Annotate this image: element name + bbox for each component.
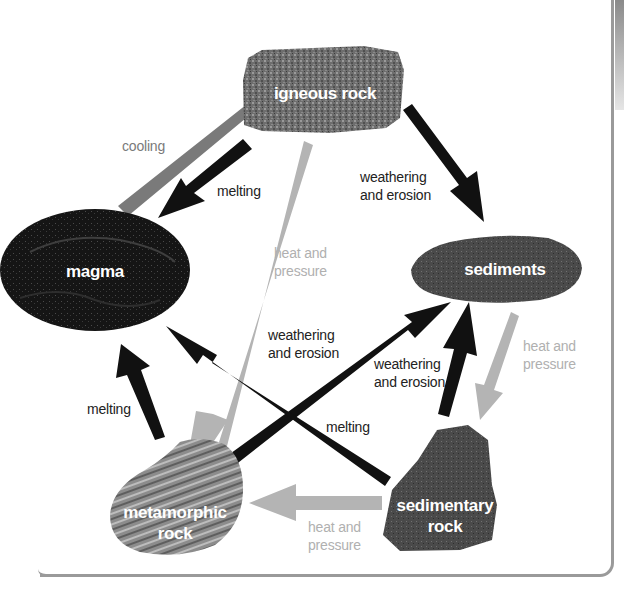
label-weathering-right: weathering and erosion — [374, 355, 445, 391]
label-heat-bottom-2: pressure — [308, 536, 361, 554]
label-heat-right-2: pressure — [523, 355, 576, 373]
sedimentary-line2: rock — [428, 516, 463, 537]
arrow-heat-sedimentary-metamorphic — [249, 484, 382, 521]
node-magma: magma — [40, 256, 150, 286]
sedimentary-line1: sedimentary — [397, 495, 494, 516]
label-heat-right-1: heat and — [523, 337, 576, 355]
label-heat-bottom-1: heat and — [308, 518, 361, 536]
label-weathering-top: weathering and erosion — [360, 168, 431, 204]
label-weathering-top-2: and erosion — [360, 186, 431, 204]
label-heat-left-2: pressure — [274, 262, 327, 280]
label-weathering-right-2: and erosion — [374, 373, 445, 391]
label-weathering-right-1: weathering — [374, 355, 445, 373]
metamorphic-line1: metamorphic — [123, 502, 226, 523]
metamorphic-line2: rock — [158, 523, 193, 544]
label-heat-left-1: heat and — [274, 244, 327, 262]
label-heat-bottom: heat and pressure — [308, 518, 361, 554]
node-metamorphic-rock: metamorphic rock — [110, 500, 240, 546]
label-weathering-mid: weathering and erosion — [268, 326, 339, 362]
node-sedimentary-rock: sedimentary rock — [390, 493, 500, 539]
label-weathering-top-1: weathering — [360, 168, 431, 186]
arrow-heat-sediments-sedimentary — [475, 312, 519, 420]
arrow-melting-metamorphic-magma — [116, 344, 165, 440]
arrow-weathering-igneous-sediments — [403, 104, 484, 222]
label-weathering-mid-1: weathering — [268, 326, 339, 344]
label-melting-cross: melting — [326, 418, 370, 436]
label-weathering-mid-2: and erosion — [268, 344, 339, 362]
label-cooling: cooling — [122, 137, 165, 155]
node-sediments: sediments — [440, 254, 570, 284]
label-heat-right: heat and pressure — [523, 337, 576, 373]
node-igneous-rock: igneous rock — [248, 78, 402, 108]
label-heat-left: heat and pressure — [274, 244, 327, 280]
label-melting-left: melting — [87, 400, 131, 418]
label-melting-top: melting — [217, 182, 261, 200]
